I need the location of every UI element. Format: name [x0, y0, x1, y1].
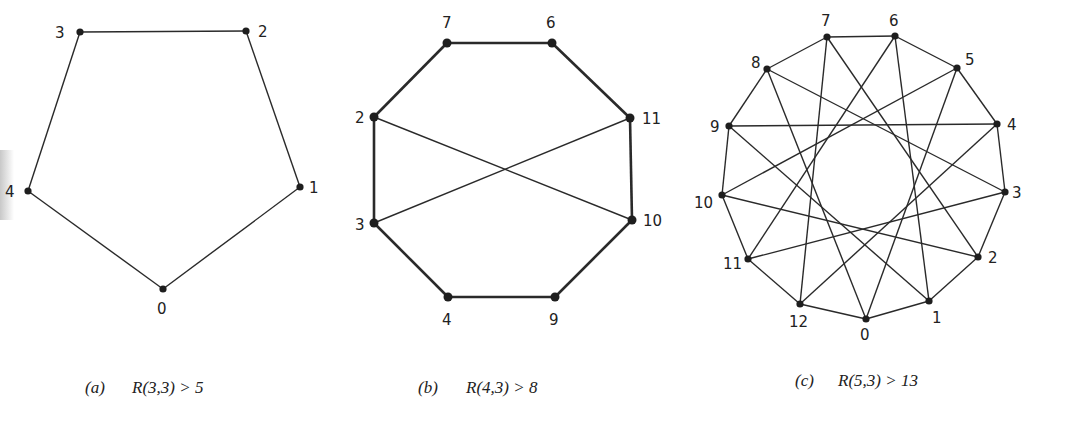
graph-vertex — [925, 297, 932, 304]
graph-vertex — [993, 120, 1000, 127]
graph-vertex — [370, 113, 379, 122]
graph-edge — [246, 31, 300, 187]
vertex-label: 5 — [965, 51, 975, 69]
caption-c-tag: (c) — [795, 371, 814, 390]
graph-edge — [729, 69, 767, 126]
graph-edge — [827, 36, 895, 37]
graph-vertex — [891, 32, 898, 39]
graph-edge — [729, 124, 997, 126]
graph-edge — [552, 43, 630, 118]
caption-b-text: R(4,3) > 8 — [465, 378, 538, 397]
caption-c-text: R(5,3) > 13 — [837, 371, 918, 390]
vertex-label: 1 — [932, 309, 942, 327]
vertex-label: 11 — [642, 110, 661, 128]
graph-edge — [374, 43, 447, 117]
graph-vertex — [370, 219, 379, 228]
graph-edge — [374, 118, 630, 223]
graph-vertex — [1001, 188, 1008, 195]
vertex-label: 2 — [258, 23, 268, 41]
graph-edge — [957, 68, 997, 124]
vertex-label: 0 — [157, 300, 167, 318]
vertex-label: 3 — [355, 216, 365, 234]
graph-edge — [929, 257, 978, 301]
graph-vertex — [548, 39, 557, 48]
vertex-label: 4 — [1007, 116, 1017, 134]
ramsey-figures: 01234 7611109432 0123456789101112 (a) R(… — [0, 0, 1070, 431]
graph-edge — [722, 195, 748, 259]
graph-edge — [895, 36, 929, 301]
vertex-label: 12 — [789, 313, 808, 331]
graph-edge — [28, 191, 163, 289]
vertex-label: 9 — [710, 118, 720, 136]
graph-vertex — [796, 300, 803, 307]
graph-vertex — [159, 285, 166, 292]
graph-vertex — [763, 65, 770, 72]
graph-edge — [722, 195, 978, 257]
graph-edge — [748, 259, 800, 304]
graph-vertex — [725, 122, 732, 129]
graph-edge — [163, 187, 300, 289]
caption-a-text: R(3,3) > 5 — [131, 378, 203, 397]
graph-vertex — [718, 191, 725, 198]
graph-vertex — [443, 39, 452, 48]
graph-edge — [555, 220, 632, 297]
vertex-label: 2 — [988, 249, 998, 267]
vertex-label: 6 — [889, 12, 899, 30]
graph-vertex — [953, 64, 960, 71]
graph-edge — [800, 304, 866, 319]
graph-edge — [895, 36, 957, 68]
graph-edge — [997, 124, 1005, 192]
graph-edge — [374, 223, 448, 297]
graph-edge — [748, 192, 1005, 259]
vertex-label: 9 — [549, 311, 559, 329]
graph-vertex — [744, 255, 751, 262]
vertex-label: 4 — [442, 311, 452, 329]
graph-edge — [866, 68, 957, 319]
vertex-label: 0 — [860, 326, 870, 344]
figure-a-pentagon-graph: 01234 — [5, 23, 319, 318]
vertex-label: 6 — [546, 14, 556, 32]
caption-a-tag: (a) — [85, 378, 105, 397]
graph-vertex — [823, 33, 830, 40]
graph-edge — [767, 69, 866, 319]
vertex-label: 2 — [355, 109, 365, 127]
vertex-label: 3 — [55, 24, 65, 42]
graph-vertex — [242, 27, 249, 34]
vertex-label: 10 — [694, 194, 713, 212]
graph-vertex — [444, 293, 453, 302]
graph-vertex — [626, 114, 635, 123]
caption-b-tag: (b) — [418, 378, 438, 397]
graph-edge — [978, 192, 1005, 257]
graph-edge — [722, 126, 729, 195]
graph-edge — [866, 301, 929, 319]
graph-edge — [80, 31, 246, 32]
figure-c-13-vertex-graph: 0123456789101112 — [694, 12, 1022, 344]
vertex-label: 10 — [643, 212, 662, 230]
graph-edge — [28, 32, 80, 191]
graph-edge — [767, 69, 1005, 192]
graph-vertex — [628, 216, 637, 225]
vertex-label: 4 — [5, 183, 15, 201]
vertex-label: 8 — [751, 54, 761, 72]
graph-vertex — [862, 315, 869, 322]
graph-edge — [800, 37, 827, 304]
graph-edge — [630, 118, 632, 220]
graph-vertex — [551, 293, 560, 302]
vertex-label: 1 — [309, 179, 319, 197]
vertex-label: 3 — [1012, 184, 1022, 202]
graph-edge — [767, 37, 827, 69]
graph-vertex — [296, 183, 303, 190]
graph-vertex — [24, 187, 31, 194]
vertex-label: 7 — [442, 14, 452, 32]
vertex-label: 7 — [821, 12, 831, 30]
graph-vertex — [76, 28, 83, 35]
vertex-label: 11 — [723, 255, 742, 273]
figure-b-octagon-graph: 7611109432 — [355, 14, 662, 329]
graph-vertex — [974, 253, 981, 260]
